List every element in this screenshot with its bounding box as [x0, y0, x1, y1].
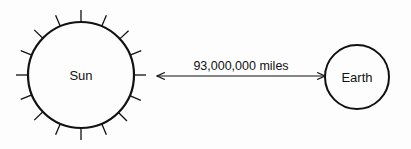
- sun-ray: [130, 51, 141, 55]
- sun-earth-diagram: Sun 93,000,000 miles Earth: [0, 0, 411, 149]
- sun-ray: [21, 95, 32, 99]
- sun-ray: [21, 51, 32, 55]
- distance-label: 93,000,000 miles: [193, 59, 288, 73]
- sun-ray: [34, 112, 43, 120]
- sun-ray: [34, 30, 43, 38]
- sun-ray: [120, 31, 129, 39]
- sun-ray: [118, 112, 126, 120]
- sun-label: Sun: [69, 68, 92, 83]
- sun-ray: [102, 124, 107, 135]
- sun-ray: [102, 15, 107, 26]
- sun-ray: [130, 96, 141, 101]
- earth-label: Earth: [341, 70, 372, 85]
- sun-ray: [56, 15, 61, 26]
- diagram-canvas: Sun 93,000,000 miles Earth: [0, 0, 411, 149]
- sun-ray: [56, 124, 61, 135]
